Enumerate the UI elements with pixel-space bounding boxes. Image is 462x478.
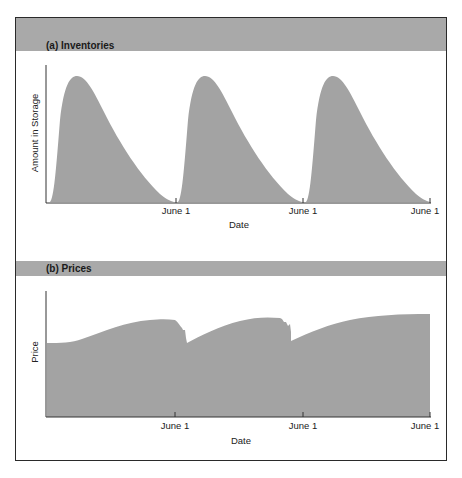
inventories-area [50,76,430,202]
inventories-x-label: Date [229,219,249,230]
prices-x-label: Date [231,435,251,446]
prices-chart: June 1 June 1 June 1 Date Price [29,291,439,446]
prices-area [47,314,430,417]
prices-tick-label-1: June 1 [161,420,190,431]
prices-tick-label-3: June 1 [411,420,440,431]
inventories-tick-label-1: June 1 [162,205,191,216]
inventories-tick-label-2: June 1 [289,205,318,216]
inventories-chart: June 1 June 1 June 1 Date Amount in Stor… [29,65,439,230]
prices-y-label: Price [29,341,40,363]
inventories-y-label: Amount in Storage [29,94,40,173]
inventories-tick-label-3: June 1 [411,205,440,216]
prices-tick-label-2: June 1 [289,420,318,431]
charts-svg: June 1 June 1 June 1 Date Amount in Stor… [0,0,462,478]
